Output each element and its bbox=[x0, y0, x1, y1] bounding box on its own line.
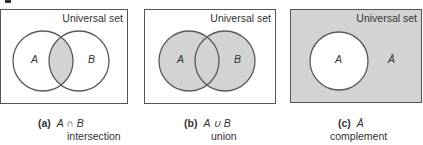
universal-set-label: Universal set bbox=[356, 12, 417, 24]
caption-intersection: (a)A ∩ B intersection bbox=[38, 117, 121, 143]
set-b-label: B bbox=[88, 53, 95, 65]
cropped-mark bbox=[5, 0, 11, 3]
universal-set-label: Universal set bbox=[62, 12, 123, 24]
set-a-label: A bbox=[335, 53, 342, 65]
set-b-label: B bbox=[234, 53, 241, 65]
venn-intersection-diagram bbox=[1, 10, 129, 105]
caption-name: intersection bbox=[67, 130, 121, 142]
caption-name: complement bbox=[330, 130, 387, 142]
caption-expression: A ∪ B bbox=[203, 117, 230, 129]
venn-union-diagram bbox=[145, 10, 277, 105]
caption-expression: A ∩ B bbox=[57, 117, 84, 129]
panel-complement: Universal set A Ā bbox=[290, 9, 422, 103]
panel-union: Universal set A B bbox=[144, 9, 276, 104]
caption-tag: (a) bbox=[38, 117, 51, 129]
complement-label: Ā bbox=[388, 53, 395, 65]
caption-tag: (b) bbox=[184, 117, 197, 129]
set-a-label: A bbox=[31, 53, 38, 65]
caption-name: union bbox=[211, 130, 237, 142]
caption-expression: Ā bbox=[357, 117, 364, 129]
caption-tag: (c) bbox=[338, 117, 351, 129]
caption-union: (b)A ∪ B union bbox=[184, 117, 237, 143]
caption-complement: (c)Ā complement bbox=[330, 117, 387, 143]
venn-complement-diagram bbox=[291, 10, 423, 104]
panel-intersection: Universal set A B bbox=[0, 9, 128, 104]
universal-set-label: Universal set bbox=[210, 12, 271, 24]
set-a-label: A bbox=[177, 53, 184, 65]
